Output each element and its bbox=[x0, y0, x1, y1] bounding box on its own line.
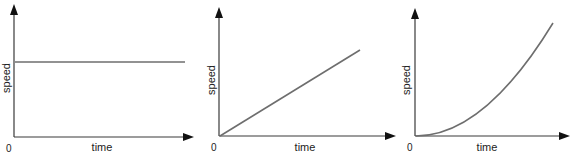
x-axis-label: time bbox=[477, 141, 498, 153]
origin-label: 0 bbox=[407, 142, 413, 153]
graph-constant-speed: 0 time speed bbox=[0, 4, 194, 154]
origin-label: 0 bbox=[6, 143, 12, 154]
y-axis-label: speed bbox=[0, 63, 12, 93]
x-axis-label: time bbox=[92, 141, 113, 153]
graph-increasing-acceleration: 0 time speed bbox=[400, 8, 570, 153]
y-axis-arrow-icon bbox=[411, 8, 419, 19]
y-axis-label: speed bbox=[205, 65, 217, 95]
y-axis-label: speed bbox=[400, 65, 412, 95]
graph-uniform-acceleration: 0 time speed bbox=[205, 7, 396, 153]
speed-time-graphs: 0 time speed 0 time speed 0 time speed bbox=[0, 0, 575, 160]
x-axis-label: time bbox=[295, 141, 316, 153]
origin-label: 0 bbox=[211, 142, 217, 153]
speed-curve bbox=[416, 23, 553, 136]
x-axis-arrow-icon bbox=[559, 132, 570, 140]
speed-line bbox=[220, 50, 360, 136]
y-axis-arrow-icon bbox=[10, 4, 18, 15]
x-axis-arrow-icon bbox=[183, 133, 194, 141]
y-axis-arrow-icon bbox=[215, 7, 223, 18]
x-axis-arrow-icon bbox=[385, 132, 396, 140]
